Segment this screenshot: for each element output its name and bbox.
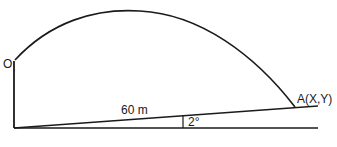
point-a-label: A(X,Y) [297,92,332,106]
angle-label: 2° [188,115,200,129]
inclined-slope-line [14,106,318,128]
origin-label: O [3,57,12,71]
distance-label: 60 m [121,103,148,117]
projectile-diagram: O A(X,Y) 60 m 2° [0,0,337,147]
trajectory-curve [15,11,295,107]
